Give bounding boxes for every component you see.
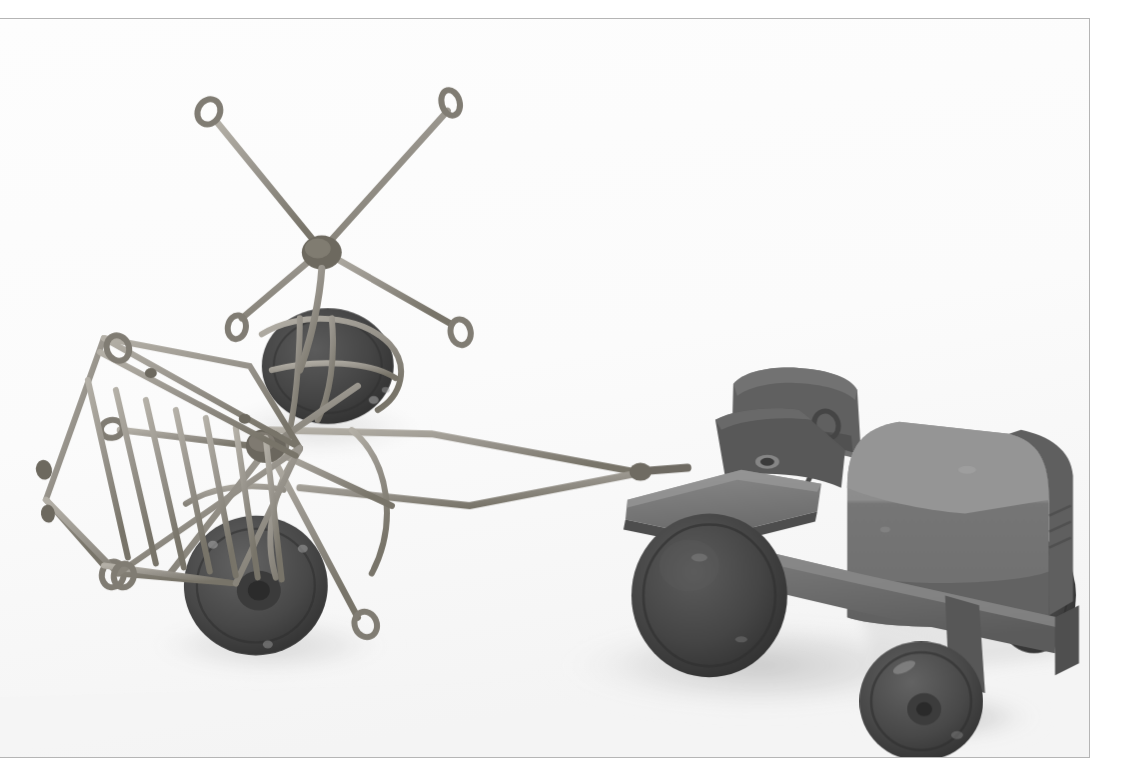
photograph-scene: Handmade toy tractor with wire hay rake … [0, 19, 1089, 757]
toy-tractor-and-rake-illustration [0, 19, 1089, 757]
photograph-plate: Handmade toy tractor with wire hay rake … [0, 0, 1130, 775]
photograph-frame: Handmade toy tractor with wire hay rake … [0, 18, 1090, 758]
film-grain-overlay [0, 19, 1089, 757]
